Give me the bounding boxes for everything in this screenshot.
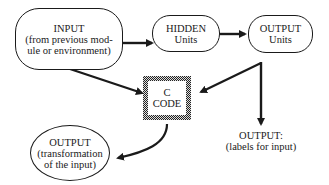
- output-labels-desc: (labels for input): [215, 141, 307, 152]
- input-title: INPUT: [54, 23, 85, 34]
- hidden-title: HIDDEN: [166, 23, 206, 34]
- c-code-title: C: [163, 87, 170, 98]
- output-transform-line2: of the input): [44, 159, 96, 170]
- output-labels-title: OUTPUT:: [215, 130, 307, 141]
- c-code-subtitle: CODE: [153, 98, 182, 109]
- output-labels-text: OUTPUT: (labels for input): [215, 130, 307, 152]
- output-units-node: OUTPUT Units: [248, 15, 313, 53]
- arrow-c-code-to-output-transform: [118, 124, 167, 158]
- output-transform-title: OUTPUT: [49, 137, 90, 148]
- output-transform-line1: (transformation: [37, 148, 102, 159]
- hidden-subtitle: Units: [175, 34, 198, 45]
- c-code-node: C CODE: [143, 76, 191, 120]
- input-node: INPUT (from previous mod- ule or environ…: [15, 8, 123, 70]
- output-units-subtitle: Units: [269, 34, 292, 45]
- arrow-output-units-to-c-code: [201, 63, 261, 92]
- arrow-input-to-c-code: [70, 69, 142, 93]
- input-desc-line1: (from previous mod-: [25, 34, 112, 45]
- hidden-units-node: HIDDEN Units: [152, 15, 220, 52]
- output-transform-node: OUTPUT (transformation of the input): [30, 125, 110, 181]
- output-units-title: OUTPUT: [260, 23, 301, 34]
- input-desc-line2: ule or environment): [27, 45, 110, 56]
